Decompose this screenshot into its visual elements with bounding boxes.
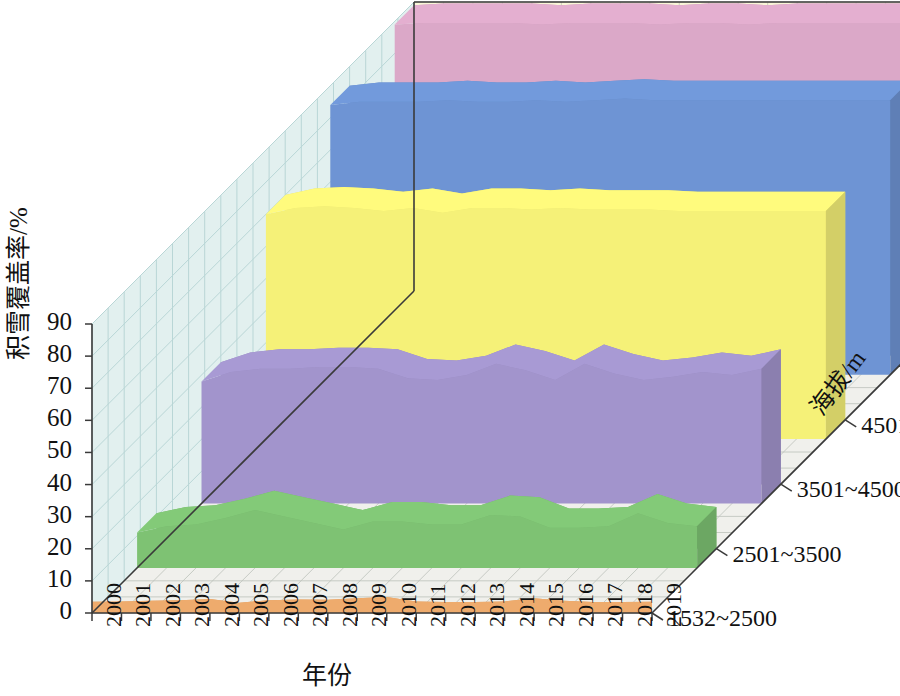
x-tick-label: 2012 — [455, 583, 481, 627]
x-tick-label: 2002 — [160, 583, 186, 627]
x-tick-label: 2016 — [573, 583, 599, 627]
z-tick-label: 1532~2500 — [668, 605, 777, 632]
y-tick-label: 70 — [26, 372, 72, 400]
series-3501~4500 — [202, 345, 781, 504]
series-end-cap — [890, 81, 900, 375]
y-tick-label: 60 — [26, 404, 72, 432]
z-tick-label: 4501~5500 — [861, 412, 900, 439]
x-tick-label: 2018 — [632, 583, 658, 627]
chart-root: 积雪覆盖率/% 年份 海拔/m 0102030405060708090 2000… — [0, 0, 900, 696]
x-tick-label: 2001 — [130, 583, 156, 627]
x-tick-label: 2000 — [101, 583, 127, 627]
x-tick-label: 2014 — [514, 583, 540, 627]
x-tick-label: 2009 — [366, 583, 392, 627]
x-tick-label: 2003 — [189, 583, 215, 627]
y-tick-label: 50 — [26, 436, 72, 464]
y-tick-label: 0 — [26, 597, 72, 625]
x-tick-label: 2004 — [219, 583, 245, 627]
y-tick-label: 40 — [26, 469, 72, 497]
x-tick-label: 2017 — [602, 583, 628, 627]
z-tick-label: 2501~3500 — [732, 541, 841, 568]
x-tick-label: 2015 — [543, 583, 569, 627]
x-tick-label: 2007 — [307, 583, 333, 627]
series-end-cap — [762, 349, 781, 503]
y-tick-label: 10 — [26, 565, 72, 593]
x-tick-label: 2010 — [396, 583, 422, 627]
y-tick-label: 30 — [26, 501, 72, 529]
y-tick-label: 20 — [26, 533, 72, 561]
x-tick-label: 2008 — [337, 583, 363, 627]
y-tick-label: 90 — [26, 308, 72, 336]
series-top-surface — [395, 4, 900, 25]
x-axis-title: 年份 — [302, 655, 352, 691]
x-tick-label: 2013 — [484, 583, 510, 627]
series-front-face — [202, 364, 762, 504]
y-tick-label: 80 — [26, 340, 72, 368]
x-tick-label: 2011 — [425, 584, 451, 627]
x-tick-label: 2005 — [248, 583, 274, 627]
x-tick-label: 2006 — [278, 583, 304, 627]
z-tick-label: 3501~4500 — [797, 476, 900, 503]
